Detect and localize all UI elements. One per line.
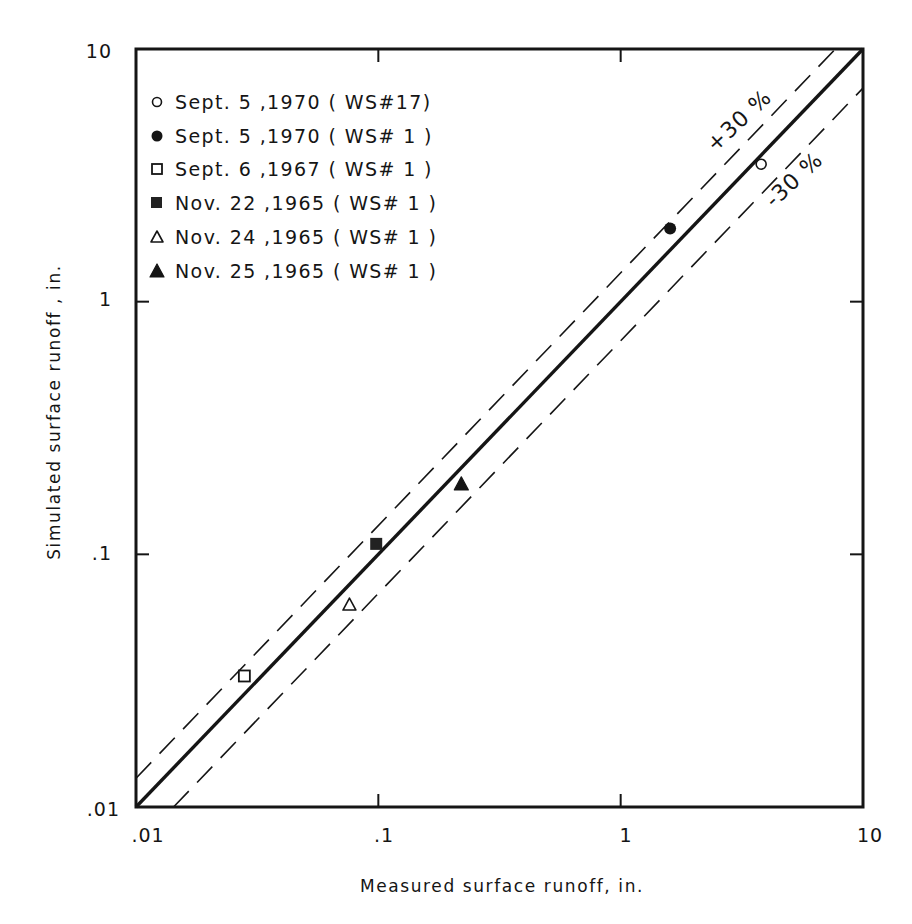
data-point xyxy=(370,538,382,550)
data-point xyxy=(454,477,468,490)
legend-label: Nov. 24 ,1965 ( WS# 1 ) xyxy=(175,226,437,248)
open-square-marker-icon xyxy=(152,164,162,174)
y-tick-label-10: 10 xyxy=(86,40,112,62)
y-tick-label-0.1: .1 xyxy=(92,542,112,564)
x-tick-label-1: 1 xyxy=(619,824,632,846)
y-tick-labels: 10 1 .1 .01 xyxy=(86,40,120,820)
filled-square-marker-icon xyxy=(370,538,382,550)
open-triangle-marker-icon xyxy=(151,231,163,242)
x-tick-label-0.1: .1 xyxy=(374,824,394,846)
chart-canvas: 10 1 .1 .01 .01 .1 1 10 Measured surface… xyxy=(0,0,912,924)
filled-square-marker-icon xyxy=(151,197,162,208)
filled-triangle-marker-icon xyxy=(454,477,468,490)
legend-label: Sept. 5 ,1970 ( WS# 1 ) xyxy=(175,125,433,147)
open-circle-marker-icon xyxy=(756,159,766,169)
minus-30-percent-label: -30 % xyxy=(760,147,827,212)
y-tick-label-1: 1 xyxy=(99,288,112,310)
open-circle-marker-icon xyxy=(153,98,162,107)
data-point xyxy=(664,222,676,234)
legend-item: Nov. 25 ,1965 ( WS# 1 ) xyxy=(150,260,437,282)
x-tick-label-10: 10 xyxy=(857,824,883,846)
legend-item: Sept. 6 ,1967 ( WS# 1 ) xyxy=(152,158,433,180)
y-tick-label-0.01: .01 xyxy=(87,798,120,820)
runoff-scatter-chart: 10 1 .1 .01 .01 .1 1 10 Measured surface… xyxy=(0,0,912,924)
plus-30-percent-label: +30 % xyxy=(701,84,776,156)
legend-label: Nov. 25 ,1965 ( WS# 1 ) xyxy=(175,260,437,282)
open-triangle-marker-icon xyxy=(343,598,356,610)
filled-circle-marker-icon xyxy=(664,222,676,234)
filled-triangle-marker-icon xyxy=(150,264,164,277)
data-point xyxy=(239,670,250,681)
legend-item: Nov. 22 ,1965 ( WS# 1 ) xyxy=(151,192,437,214)
y-axis-title: Simulated surface runoff , in. xyxy=(44,264,64,560)
open-square-marker-icon xyxy=(239,670,250,681)
x-axis-title: Measured surface runoff, in. xyxy=(360,876,644,896)
data-point xyxy=(343,598,356,610)
legend-item: Nov. 24 ,1965 ( WS# 1 ) xyxy=(151,226,437,248)
legend-item: Sept. 5 ,1970 ( WS# 1 ) xyxy=(152,125,433,147)
x-tick-labels: .01 .1 1 10 xyxy=(131,824,883,846)
legend-label: Sept. 5 ,1970 ( WS#17) xyxy=(175,91,432,113)
filled-circle-marker-icon xyxy=(152,131,163,142)
legend-label: Nov. 22 ,1965 ( WS# 1 ) xyxy=(175,192,437,214)
legend-item: Sept. 5 ,1970 ( WS#17) xyxy=(153,91,432,113)
legend-label: Sept. 6 ,1967 ( WS# 1 ) xyxy=(175,158,433,180)
data-point xyxy=(756,159,766,169)
legend: Sept. 5 ,1970 ( WS#17) Sept. 5 ,1970 ( W… xyxy=(150,91,437,282)
x-tick-label-0.01: .01 xyxy=(131,824,164,846)
